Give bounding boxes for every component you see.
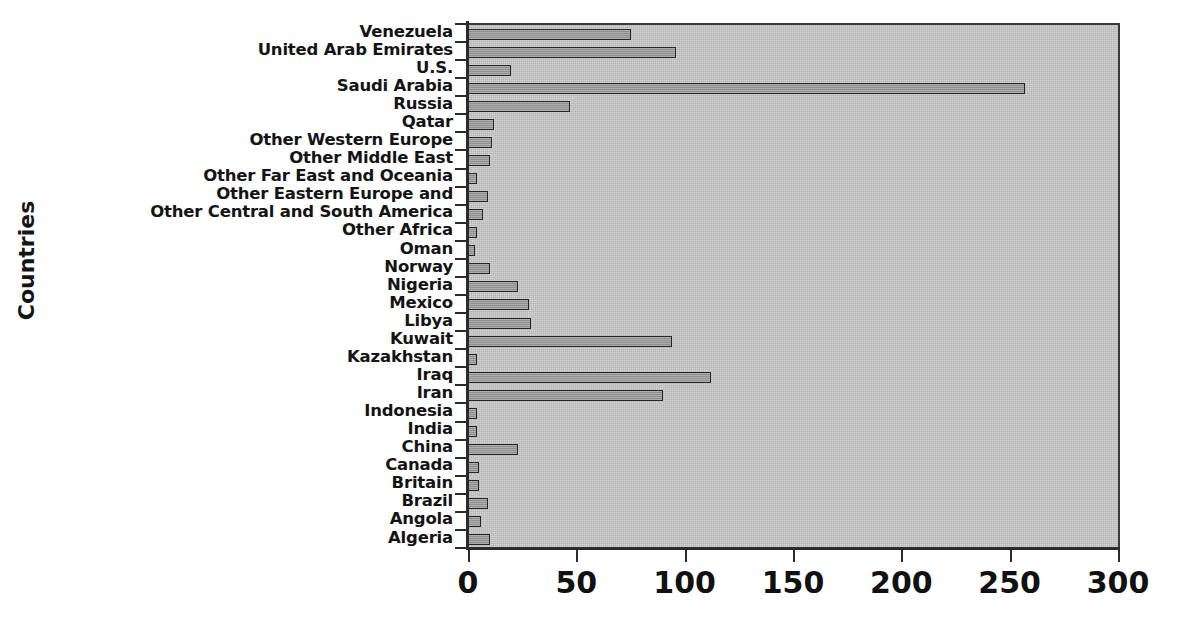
y-axis-tick: [455, 149, 467, 151]
y-axis-category-label: Britain: [80, 475, 460, 493]
x-axis-tick-label: 250: [978, 568, 1041, 598]
y-axis-category-label: Other Far East and Oceania: [80, 168, 460, 186]
bar-row: [468, 278, 1118, 296]
bar-row: [468, 43, 1118, 61]
bar: [468, 155, 490, 166]
y-axis-tick: [455, 77, 467, 79]
bar: [468, 101, 570, 112]
y-axis-category-label: Other Middle East: [80, 149, 460, 167]
bar-chart: Countries VenezuelaUnited Arab EmiratesU…: [0, 0, 1189, 639]
plot-area: [468, 23, 1120, 549]
y-axis-category-label: Qatar: [80, 113, 460, 131]
y-axis-category-label: Brazil: [80, 493, 460, 511]
x-axis-tick: [901, 550, 903, 562]
y-axis-tick: [455, 168, 467, 170]
bar: [468, 65, 511, 76]
y-axis-tick: [455, 439, 467, 441]
bar-row: [468, 242, 1118, 260]
x-axis-tick: [793, 550, 795, 562]
bar-row: [468, 61, 1118, 79]
y-axis-category-label: Indonesia: [80, 402, 460, 420]
y-axis-tick: [455, 384, 467, 386]
y-axis-tick: [455, 366, 467, 368]
bar: [468, 227, 477, 238]
y-axis-category-label: India: [80, 420, 460, 438]
x-axis-tick-label: 200: [870, 568, 933, 598]
bar: [468, 281, 518, 292]
bar-row: [468, 440, 1118, 458]
x-axis-tick-label: 100: [653, 568, 716, 598]
bar: [468, 498, 488, 509]
bar: [468, 480, 479, 491]
bar: [468, 462, 479, 473]
y-axis-category-label: Libya: [80, 312, 460, 330]
bar-series: [468, 25, 1118, 549]
y-axis-tick: [455, 276, 467, 278]
y-axis-tick: [455, 131, 467, 133]
y-axis-category-label: China: [80, 438, 460, 456]
y-axis-category-label: Other Central and South America: [80, 204, 460, 222]
x-axis-tick: [685, 550, 687, 562]
y-axis-category-label: Mexico: [80, 294, 460, 312]
bar-row: [468, 79, 1118, 97]
x-axis-tick-labels: 050100150200250300: [468, 568, 1118, 608]
bar: [468, 534, 490, 545]
y-axis-category-label: U.S.: [80, 59, 460, 77]
y-axis-category-label: Kuwait: [80, 330, 460, 348]
y-axis-tick: [455, 95, 467, 97]
y-axis-tick: [455, 493, 467, 495]
y-axis-tick: [455, 421, 467, 423]
y-axis-tick: [455, 511, 467, 513]
y-axis-tick: [455, 240, 467, 242]
bar-row: [468, 260, 1118, 278]
bar-row: [468, 170, 1118, 188]
x-axis-tick: [576, 550, 578, 562]
bar: [468, 426, 477, 437]
x-axis-tick: [1118, 550, 1120, 562]
y-axis-category-label: Oman: [80, 240, 460, 258]
y-axis-tick: [455, 294, 467, 296]
bar-row: [468, 314, 1118, 332]
y-axis-tick: [455, 258, 467, 260]
x-axis-tick: [1010, 550, 1012, 562]
y-axis-category-label: Russia: [80, 95, 460, 113]
y-axis-category-label: Angola: [80, 511, 460, 529]
y-axis-tick: [455, 348, 467, 350]
bar-row: [468, 422, 1118, 440]
y-axis-category-label: United Arab Emirates: [80, 41, 460, 59]
y-axis-tick: [455, 330, 467, 332]
bar-row: [468, 386, 1118, 404]
bar: [468, 336, 672, 347]
bar-row: [468, 296, 1118, 314]
bar-row: [468, 133, 1118, 151]
bar-row: [468, 224, 1118, 242]
y-axis-tick: [455, 23, 467, 25]
bar: [468, 119, 494, 130]
bar-row: [468, 368, 1118, 386]
bar: [468, 83, 1025, 94]
bar-row: [468, 404, 1118, 422]
y-axis-tick: [455, 186, 467, 188]
bar-row: [468, 332, 1118, 350]
y-axis-category-label: Iraq: [80, 366, 460, 384]
x-axis-tick-label: 150: [762, 568, 825, 598]
y-axis-category-label: Venezuela: [80, 23, 460, 41]
bar: [468, 29, 631, 40]
bar: [468, 47, 676, 58]
x-axis-tick-label: 0: [458, 568, 479, 598]
bar-row: [468, 188, 1118, 206]
bar-row: [468, 513, 1118, 531]
y-axis-ticks: [455, 23, 467, 547]
x-axis-tick-label: 50: [555, 568, 597, 598]
bar-row: [468, 495, 1118, 513]
bar: [468, 408, 477, 419]
bar-row: [468, 115, 1118, 133]
y-axis-category-label: Saudi Arabia: [80, 77, 460, 95]
y-axis-category-label: Norway: [80, 258, 460, 276]
y-axis-tick: [455, 529, 467, 531]
y-axis-category-label: Other Western Europe: [80, 131, 460, 149]
bar: [468, 444, 518, 455]
bar: [468, 191, 488, 202]
x-axis-tick: [468, 550, 470, 562]
bar: [468, 354, 477, 365]
